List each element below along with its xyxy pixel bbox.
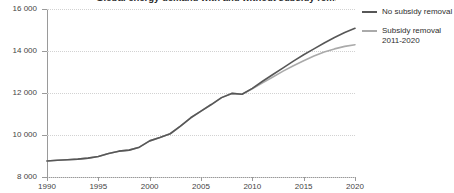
legend-item[interactable]: Subsidy removal 2011-2020 bbox=[362, 26, 454, 46]
legend-label: Subsidy removal 2011-2020 bbox=[382, 26, 454, 46]
legend-swatch-icon bbox=[362, 30, 377, 32]
series-line bbox=[47, 45, 355, 161]
legend-label: No subsidy removal bbox=[382, 7, 454, 17]
chart-legend: No subsidy removalSubsidy removal 2011-2… bbox=[362, 7, 454, 55]
series-line bbox=[47, 28, 355, 161]
legend-swatch-icon bbox=[362, 11, 377, 13]
legend-item[interactable]: No subsidy removal bbox=[362, 7, 454, 17]
